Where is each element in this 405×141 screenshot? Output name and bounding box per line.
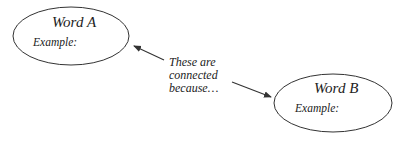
arrow-to-word-a [134,46,164,60]
node-b-example-label: Example: [295,103,339,115]
concept-map: Word A Example: These are connected beca… [0,0,405,141]
arrow-to-word-b [232,82,271,97]
node-a-title: Word A [52,15,96,30]
node-b-title: Word B [314,81,358,96]
node-a-example-label: Example: [33,37,77,49]
connector-text-line-3: because… [169,82,218,95]
